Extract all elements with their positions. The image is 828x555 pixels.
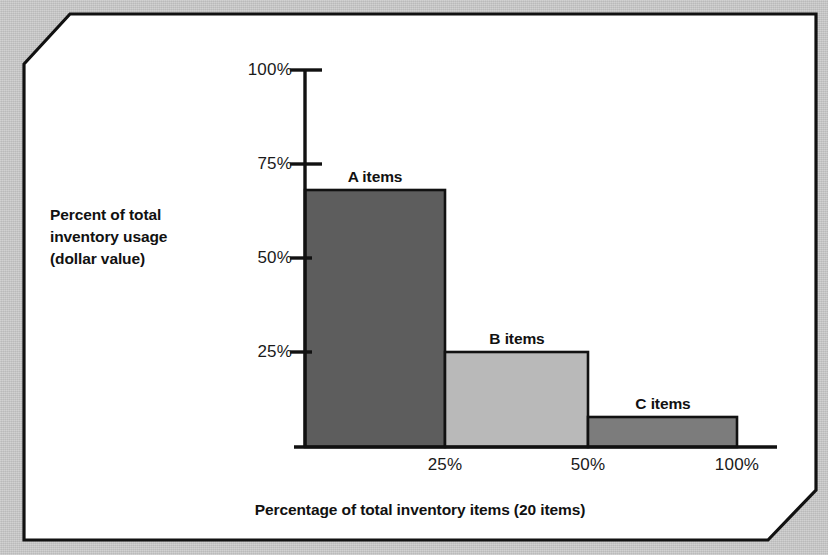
bar-label-a-items: A items xyxy=(348,168,403,186)
x-tick-label-100: 100% xyxy=(715,455,759,475)
x-tick-label-25: 25% xyxy=(428,455,463,475)
bar-label-b-items: B items xyxy=(489,330,544,348)
y-axis-title-line-2: inventory usage xyxy=(50,226,220,248)
x-tick-label-50: 50% xyxy=(571,455,606,475)
chart-plot-area: 100% 75% 50% 25% 25% 50% 100% A items B … xyxy=(22,12,818,542)
y-axis-title-line-1: Percent of total xyxy=(50,204,220,226)
y-axis-title-line-3: (dollar value) xyxy=(50,248,220,270)
x-tick-label-group: 25% 50% 100% xyxy=(22,12,818,542)
bar-label-c-items: C items xyxy=(635,395,690,413)
y-axis-title: Percent of total inventory usage (dollar… xyxy=(50,204,220,270)
x-axis-title: Percentage of total inventory items (20 … xyxy=(22,501,818,519)
